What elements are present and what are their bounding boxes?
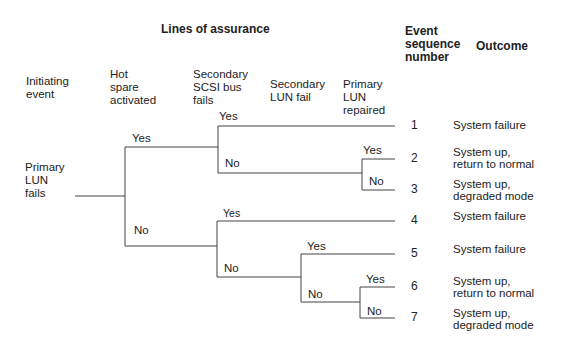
sequence-number: 5 xyxy=(411,246,418,260)
header-event-sequence: Event sequence number xyxy=(405,25,460,64)
outcome-text: System up, degraded mode xyxy=(453,178,534,202)
sequence-number: 3 xyxy=(411,182,418,196)
outcome-text: System failure xyxy=(453,243,526,255)
outcome-text: System up, degraded mode xyxy=(453,307,534,331)
outcome-text: System up, return to normal xyxy=(453,275,534,299)
outcome-text: System failure xyxy=(453,119,526,131)
sequence-number: 6 xyxy=(411,279,418,293)
initiating-event-label: Primary LUN fails xyxy=(25,161,65,200)
branch-label: Yes xyxy=(363,144,382,156)
branch-label: No xyxy=(224,262,239,274)
branch-label: Yes xyxy=(366,273,385,285)
branch-label: No xyxy=(225,157,240,169)
header-primary-repaired: Primary LUN repaired xyxy=(343,78,385,117)
branch-label: Yes xyxy=(307,240,326,252)
branch-label: No xyxy=(367,305,382,317)
branch-label: Yes xyxy=(223,207,240,219)
sequence-number: 2 xyxy=(411,151,418,165)
branch-label: Yes xyxy=(132,132,151,144)
branch-label: No xyxy=(134,224,149,236)
header-initiating-event: Initiating event xyxy=(26,75,69,101)
header-outcome: Outcome xyxy=(476,40,528,53)
branch-label: No xyxy=(369,175,384,187)
sequence-number: 1 xyxy=(411,118,418,132)
outcome-text: System failure xyxy=(453,210,526,222)
outcome-text: System up, return to normal xyxy=(453,146,534,170)
header-secondary-lun: Secondary LUN fail xyxy=(270,78,325,104)
lines-of-assurance-title: Lines of assurance xyxy=(161,23,270,36)
branch-label: No xyxy=(308,288,323,300)
header-hot-spare: Hot spare activated xyxy=(110,68,156,107)
sequence-number: 4 xyxy=(411,213,418,227)
header-scsi-bus: Secondary SCSI bus fails xyxy=(193,68,248,107)
sequence-number: 7 xyxy=(411,310,418,324)
branch-label: Yes xyxy=(219,110,238,122)
